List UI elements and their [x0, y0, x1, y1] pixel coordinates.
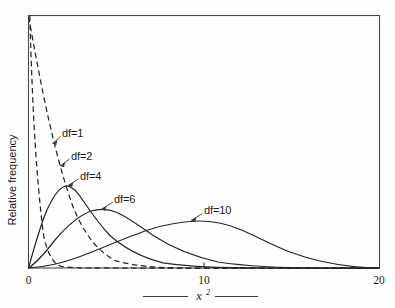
plot-frame — [29, 16, 380, 269]
arrowhead-df2 — [60, 162, 65, 167]
curve-label-df10: df=10 — [204, 204, 231, 216]
curve-label-df6: df=6 — [114, 193, 135, 205]
tick-label-0: 0 — [26, 274, 32, 286]
chi-square-distribution-figure: df=1 df=2 df=4 df=6 df=10 0 10 20 Relati… — [0, 0, 395, 308]
curve-df6 — [29, 209, 379, 268]
x-axis-ticks: 0 10 20 — [26, 263, 385, 287]
x-axis-label-exponent: 2 — [206, 288, 210, 297]
chart-svg: df=1 df=2 df=4 df=6 df=10 0 10 20 Relati… — [0, 0, 395, 308]
curve-label-df2: df=2 — [71, 150, 92, 162]
leader-df2 — [60, 159, 70, 166]
tick-label-10: 10 — [198, 274, 210, 286]
curve-df10 — [29, 221, 379, 268]
tick-label-20: 20 — [373, 274, 385, 286]
x-axis-label: x — [195, 289, 202, 303]
y-axis-label: Relative frequency — [6, 134, 18, 226]
x-axis-label-group: x 2 — [143, 288, 258, 304]
curve-df1 — [30, 16, 379, 269]
curve-label-df1: df=1 — [62, 127, 83, 139]
curve-label-df4: df=4 — [80, 170, 101, 182]
curve-df2 — [29, 17, 379, 268]
